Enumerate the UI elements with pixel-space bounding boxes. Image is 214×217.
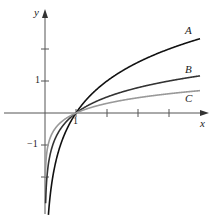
x-tick-label-1: 1 (73, 115, 78, 126)
series-b-curve (46, 76, 200, 203)
series-label-a: A (185, 24, 192, 36)
series-label-c: C (185, 92, 192, 104)
plot-area (0, 0, 214, 217)
y-axis-label: y (34, 6, 39, 18)
y-axis-arrow-icon (42, 9, 48, 18)
series-a-curve (48, 39, 200, 215)
series-label-b: B (185, 63, 192, 75)
chart: y x 1 1 −1 A B C (0, 0, 214, 217)
x-axis-arrow-icon (200, 110, 209, 116)
y-tick-label-1: 1 (35, 74, 40, 85)
x-axis-label: x (200, 117, 205, 129)
y-tick-label-neg1: −1 (27, 138, 38, 149)
series-c-curve (45, 91, 200, 177)
